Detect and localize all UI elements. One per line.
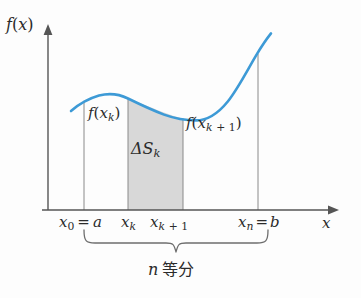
tick-label-xk-plus-1: xk + 1 — [150, 215, 188, 232]
f-xk-var: x — [99, 104, 107, 122]
f-xk1-plus: + 1 — [216, 121, 235, 134]
n-equal-parts-n: n — [148, 260, 158, 279]
delta-sk-sub: k — [154, 146, 161, 160]
n-equal-parts-text: 等分 — [162, 260, 194, 279]
x-axis-label: x — [322, 216, 330, 231]
x0-value-a: a — [93, 213, 102, 231]
label-delta-sk: ΔSk — [131, 141, 161, 159]
figure-canvas — [0, 0, 361, 298]
y-axis-arrowhead — [44, 24, 53, 35]
tick-label-x0-eq-a: x0=a — [59, 215, 102, 232]
label-n-equal-parts: n等分 — [148, 262, 194, 278]
f-xk-close: ) — [114, 104, 120, 122]
tick-label-xn-eq-b: xn=b — [238, 215, 280, 232]
label-f-xk: f(xk) — [88, 106, 120, 123]
xn-eq: = — [255, 213, 268, 231]
xn-value-b: b — [270, 213, 280, 231]
f-xk1-close: ) — [236, 114, 242, 132]
riemann-sum-figure: f(x) f(xk) f(xk + 1) ΔSk x0=a xk xk + 1 … — [0, 0, 361, 298]
x0-eq: = — [77, 213, 90, 231]
n-partition-brace — [84, 230, 268, 252]
delta-sk-symbol: ΔS — [131, 139, 154, 158]
f-xk1-var: x — [197, 114, 205, 132]
x0-sub: 0 — [67, 220, 74, 233]
xn-sub: n — [246, 220, 253, 233]
y-axis-label-close: ) — [27, 15, 33, 34]
xk1-plus: + 1 — [169, 220, 188, 233]
xk-sub: k — [129, 220, 136, 233]
tick-label-xk: xk — [121, 215, 136, 232]
y-axis-label: f(x) — [6, 17, 33, 33]
label-f-xk-plus-1: f(xk + 1) — [186, 116, 241, 133]
y-axis-label-var: x — [18, 15, 27, 34]
